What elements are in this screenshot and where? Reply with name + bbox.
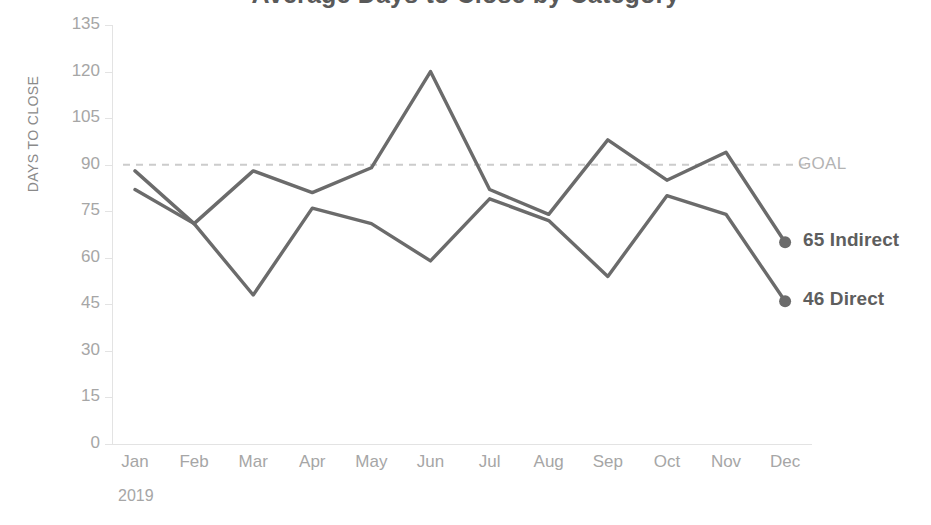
y-axis-tick-mark <box>105 118 112 119</box>
goal-callout-label: GOAL <box>798 154 846 174</box>
y-axis-tick-label: 60 <box>56 247 100 267</box>
series-endpoint-dot-indirect <box>779 236 791 248</box>
y-axis-tick-mark <box>105 211 112 212</box>
plot-svg <box>112 25 788 444</box>
y-axis-tick-label: 45 <box>56 293 100 313</box>
y-axis-tick-mark <box>105 397 112 398</box>
y-axis-title: DAYS TO CLOSE <box>25 39 41 229</box>
y-axis-tick-label: 90 <box>56 154 100 174</box>
chart-container: Average Days to Close by Category DAYS T… <box>0 0 931 525</box>
y-axis-tick-mark <box>105 165 112 166</box>
chart-title: Average Days to Close by Category <box>0 0 931 9</box>
series-line-indirect <box>135 72 785 243</box>
y-axis-tick-mark <box>105 72 112 73</box>
plot-area <box>112 25 788 444</box>
series-line-direct <box>135 189 785 301</box>
y-axis-tick-label: 30 <box>56 340 100 360</box>
y-axis-tick-mark <box>105 258 112 259</box>
y-axis-tick-label: 135 <box>56 14 100 34</box>
y-axis-tick-label: 15 <box>56 386 100 406</box>
y-axis-tick-label: 75 <box>56 200 100 220</box>
series-callout-direct: 46 Direct <box>803 288 884 310</box>
series-callout-indirect: 65 Indirect <box>803 229 899 251</box>
y-axis-tick-label: 105 <box>56 107 100 127</box>
x-axis-tick-label: Dec <box>750 452 820 472</box>
y-axis-tick-mark <box>105 304 112 305</box>
series-endpoint-dot-direct <box>779 295 791 307</box>
y-axis-tick-mark <box>105 351 112 352</box>
y-axis-tick-mark <box>105 25 112 26</box>
y-axis-tick-label: 0 <box>56 433 100 453</box>
x-axis-line <box>112 444 812 445</box>
y-axis-tick-mark <box>105 444 112 445</box>
y-axis-tick-label: 120 <box>56 61 100 81</box>
x-axis-period-label: 2019 <box>118 487 154 505</box>
